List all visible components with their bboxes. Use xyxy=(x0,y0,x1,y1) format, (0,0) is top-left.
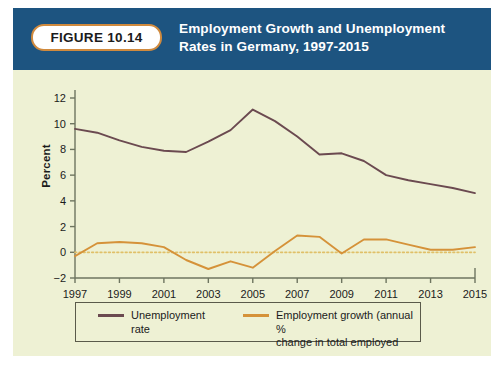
chart-legend: Unemployment rate Employment growth (ann… xyxy=(75,302,421,342)
y-axis-tick-label: 6 xyxy=(60,169,66,181)
x-axis-tick-label: 2009 xyxy=(329,288,353,300)
figure-number-badge: FIGURE 10.14 xyxy=(31,24,162,51)
x-axis-tick-label: 2013 xyxy=(418,288,442,300)
y-axis-tick-label: 2 xyxy=(60,221,66,233)
figure-card: FIGURE 10.14 Employment Growth and Unemp… xyxy=(13,8,491,356)
y-axis-tick-label: 4 xyxy=(60,195,66,207)
figure-number-label: FIGURE 10.14 xyxy=(50,30,142,45)
figure-title: Employment Growth and Unemployment Rates… xyxy=(179,20,479,55)
y-axis-tick-label: 10 xyxy=(54,118,66,130)
series-line-unemployment-rate xyxy=(75,110,475,194)
y-axis-tick-label: 0 xyxy=(60,246,66,258)
y-axis-tick-label: −2 xyxy=(53,272,66,284)
x-axis-tick-label: 2001 xyxy=(152,288,176,300)
x-axis-tick-label: 2007 xyxy=(285,288,309,300)
legend-label-employment-growth: Employment growth (annual % change in to… xyxy=(276,309,420,350)
legend-swatch-employment-growth xyxy=(243,314,269,317)
y-axis-tick-label: 12 xyxy=(54,92,66,104)
chart-area: Percent −2024681012199719992001200320052… xyxy=(13,70,491,356)
x-axis-tick-label: 2005 xyxy=(241,288,265,300)
x-axis-tick-label: 2011 xyxy=(374,288,398,300)
x-axis-tick-label: 1997 xyxy=(63,288,87,300)
legend-label-unemployment-rate: Unemployment rate xyxy=(131,309,223,336)
legend-item-employment-growth: Employment growth (annual % change in to… xyxy=(243,309,420,350)
legend-swatch-unemployment-rate xyxy=(98,314,124,317)
figure-title-line-2: Rates in Germany, 1997-2015 xyxy=(179,38,479,56)
legend-item-unemployment-rate: Unemployment rate xyxy=(98,309,223,336)
x-axis-tick-label: 2003 xyxy=(196,288,220,300)
y-axis-tick-label: 8 xyxy=(60,143,66,155)
figure-header: FIGURE 10.14 Employment Growth and Unemp… xyxy=(13,8,491,70)
figure-title-line-1: Employment Growth and Unemployment xyxy=(179,20,479,38)
x-axis-tick-label: 2015 xyxy=(463,288,487,300)
x-axis-tick-label: 1999 xyxy=(107,288,131,300)
